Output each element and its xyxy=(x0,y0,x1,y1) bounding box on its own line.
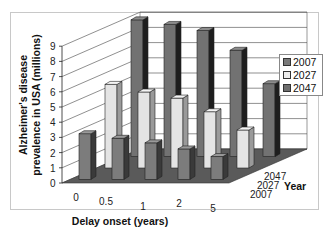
chart-canvas: 012345678900.5125200720272047YearDelay o… xyxy=(0,0,327,232)
y-tick-label: 4 xyxy=(50,117,56,128)
legend-swatch-icon xyxy=(283,58,291,66)
x-tick-label: 5 xyxy=(210,203,216,214)
y-axis-title-line2: prevalence in USA (millions) xyxy=(30,34,42,175)
legend-swatch-icon xyxy=(283,84,291,92)
y-tick-label: 3 xyxy=(50,132,56,143)
y-tick-label: 9 xyxy=(50,41,56,52)
bar-2007-0.5 xyxy=(112,135,129,179)
bar-2007-2 xyxy=(178,146,195,179)
x-tick-label: 2 xyxy=(176,198,182,209)
bar-2007-5 xyxy=(211,154,228,180)
x-tick-label: 1 xyxy=(140,201,146,212)
legend-item-2047: 2047 xyxy=(283,82,316,94)
y-tick-label: 8 xyxy=(50,56,56,67)
bar-2007-0 xyxy=(79,131,96,180)
y-tick-label: 6 xyxy=(50,87,56,98)
x-tick-label: 0 xyxy=(73,192,79,203)
y-tick-label: 0 xyxy=(50,178,56,189)
bar-2027-5 xyxy=(237,127,254,168)
legend-label: 2027 xyxy=(293,69,316,81)
y-tick-label: 7 xyxy=(50,72,56,83)
bar-2007-1 xyxy=(145,140,162,179)
bar-2047-5 xyxy=(263,81,280,157)
legend-item-2007: 2007 xyxy=(283,56,316,68)
x-tick-label: 0.5 xyxy=(99,196,113,207)
legend-label: 2047 xyxy=(293,82,316,94)
y-tick-label: 5 xyxy=(50,102,56,113)
legend-label: 2007 xyxy=(293,56,316,68)
y-axis-title-line1: Alzheimer's disease xyxy=(17,55,29,155)
legend-swatch-icon xyxy=(283,71,291,79)
z-axis-title: Year xyxy=(284,180,306,192)
y-tick-label: 1 xyxy=(50,163,56,174)
chart-legend: 2007 2027 2047 xyxy=(279,54,323,96)
x-axis-title: Delay onset (years) xyxy=(72,215,168,227)
y-tick-label: 2 xyxy=(50,148,56,159)
legend-item-2027: 2027 xyxy=(283,69,316,81)
